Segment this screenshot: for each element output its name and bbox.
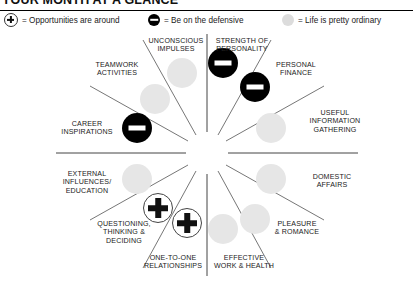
sector-label-one-to-one-relationships: ONE-TO-ONE RELATIONSHIPS: [140, 254, 206, 271]
sector-label-questioning-thinking-deciding: QUESTIONING, THINKING & DECIDING: [88, 220, 160, 245]
legend-item-defensive: = Be on the defensive: [148, 12, 243, 28]
marker-career-inspirations: [122, 113, 152, 143]
plus-icon: [172, 208, 202, 238]
legend: = Opportunities are around = Be on the d…: [0, 12, 413, 28]
marker-external-influences-education: [122, 164, 152, 194]
neutral-icon: [256, 113, 286, 143]
marker-unconscious-impulses: [167, 58, 197, 88]
minus-icon: [148, 14, 160, 26]
legend-item-opportunities: = Opportunities are around: [4, 12, 120, 28]
neutral-icon: [256, 164, 286, 194]
neutral-icon: [282, 14, 294, 26]
legend-item-label: = Be on the defensive: [164, 16, 243, 25]
sector-label-pleasure-romance: PLEASURE & ROMANCE: [266, 220, 328, 237]
sector-label-domestic-affairs: DOMESTIC AFFAIRS: [300, 173, 364, 190]
neutral-icon: [167, 58, 197, 88]
wheel-spokes: [0, 28, 413, 282]
marker-domestic-affairs: [256, 164, 286, 194]
marker-personal-finance: [240, 72, 270, 102]
legend-item-ordinary: = Life is pretty ordinary: [282, 12, 381, 28]
sector-label-personal-finance: PERSONAL FINANCE: [268, 61, 324, 78]
marker-one-to-one-relationships: [172, 208, 202, 238]
neutral-icon: [208, 214, 238, 244]
life-areas-wheel: UNCONSCIOUS IMPULSES STRENGTH OF PERSONA…: [0, 28, 413, 282]
marker-effective-work-health: [208, 214, 238, 244]
sector-label-teamwork-activities: TEAMWORK ACTIVITIES: [84, 61, 150, 78]
sector-label-external-influences-education: EXTERNAL INFLUENCES/ EDUCATION: [52, 170, 122, 195]
legend-item-label: = Life is pretty ordinary: [298, 16, 381, 25]
sector-label-career-inspirations: CAREER INSPIRATIONS: [54, 120, 120, 137]
neutral-icon: [140, 84, 170, 114]
header-divider: [0, 10, 413, 11]
sector-label-useful-information-gathering: USEFUL INFORMATION GATHERING: [300, 109, 370, 134]
page-title: YOUR MONTH AT A GLANCE: [2, 0, 178, 7]
marker-teamwork-activities: [140, 84, 170, 114]
plus-icon: [143, 193, 173, 223]
neutral-icon: [122, 164, 152, 194]
minus-icon: [122, 113, 152, 143]
sector-label-strength-of-personality: STRENGTH OF PERSONALITY: [210, 37, 274, 54]
legend-item-label: = Opportunities are around: [22, 16, 120, 25]
plus-icon: [4, 13, 18, 27]
sector-label-effective-work-health: EFFECTIVE WORK & HEALTH: [210, 254, 278, 271]
marker-useful-information-gathering: [256, 113, 286, 143]
marker-questioning-thinking-deciding: [143, 193, 173, 223]
sector-label-unconscious-impulses: UNCONSCIOUS IMPULSES: [144, 37, 208, 54]
minus-icon: [240, 72, 270, 102]
month-at-a-glance-page: YOUR MONTH AT A GLANCE = Opportunities a…: [0, 0, 413, 282]
